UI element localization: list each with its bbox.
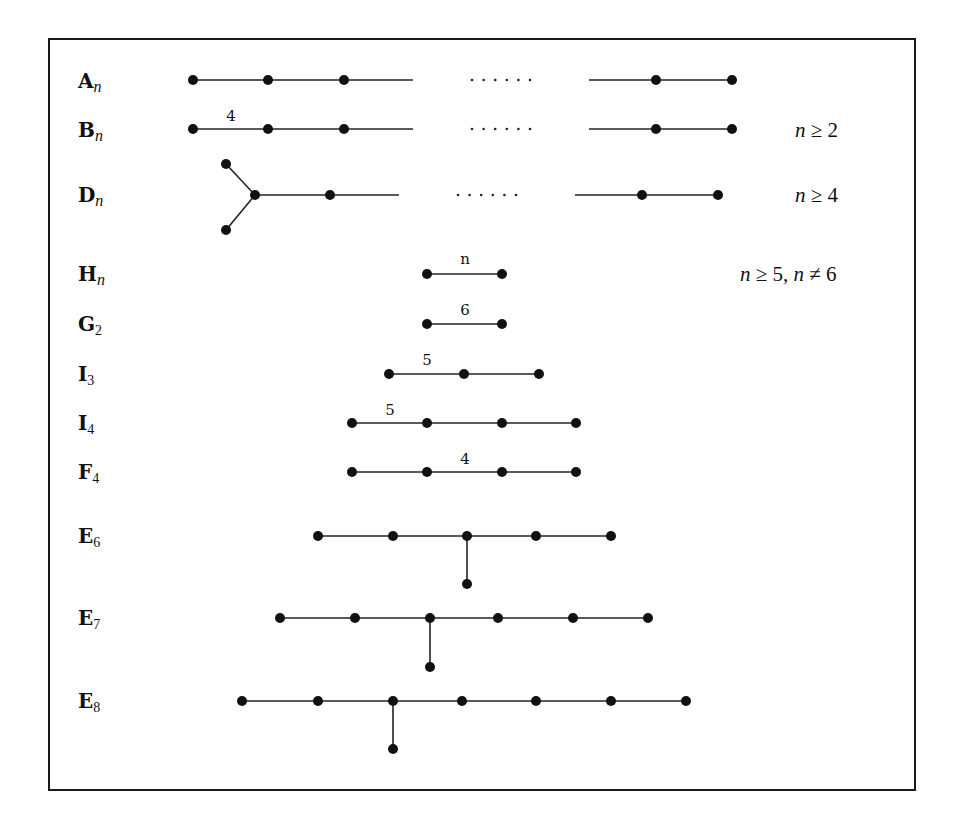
diagram-row-i-3: I35 bbox=[78, 351, 544, 388]
ellipsis-dot bbox=[503, 194, 506, 197]
row-label-letter: E bbox=[78, 524, 93, 548]
diagram-node bbox=[727, 124, 737, 134]
row-label: G2 bbox=[78, 312, 102, 338]
row-label-subscript: n bbox=[95, 127, 103, 144]
ellipsis-dot bbox=[494, 79, 497, 82]
diagram-node bbox=[422, 418, 432, 428]
diagram-node bbox=[531, 531, 541, 541]
diagram-node bbox=[339, 124, 349, 134]
row-label: E8 bbox=[78, 689, 100, 715]
diagram-node bbox=[643, 613, 653, 623]
row-label-subscript: 8 bbox=[93, 700, 100, 715]
row-label: Dn bbox=[78, 183, 103, 209]
diagram-row-e-8: E8 bbox=[78, 689, 691, 754]
diagram-node bbox=[651, 124, 661, 134]
ellipsis-dot bbox=[494, 128, 497, 131]
diagram-node bbox=[531, 696, 541, 706]
diagram-node bbox=[713, 190, 723, 200]
diagram-row-e-6: E6 bbox=[78, 524, 616, 589]
ellipsis-dot bbox=[517, 79, 520, 82]
diagram-node bbox=[350, 613, 360, 623]
diagram-row-b-n: Bn4n ≥ 2 bbox=[78, 107, 838, 144]
diagram-node bbox=[681, 696, 691, 706]
diagram-node bbox=[457, 696, 467, 706]
ellipsis-dot bbox=[515, 194, 518, 197]
diagram-node bbox=[462, 531, 472, 541]
diagram-node bbox=[313, 531, 323, 541]
row-label-letter: F bbox=[78, 460, 92, 484]
diagram-node bbox=[221, 159, 231, 169]
row-condition: n ≥ 4 bbox=[795, 183, 839, 207]
row-label: F4 bbox=[78, 460, 99, 486]
row-label-subscript: n bbox=[94, 78, 102, 95]
diagram-node bbox=[493, 613, 503, 623]
diagram-node bbox=[497, 418, 507, 428]
row-label-letter: G bbox=[78, 312, 95, 336]
diagram-node bbox=[347, 467, 357, 477]
ellipsis-dot bbox=[482, 128, 485, 131]
diagram-edge bbox=[226, 164, 255, 195]
row-label-letter: B bbox=[78, 118, 95, 142]
row-label-subscript: 4 bbox=[92, 471, 99, 486]
ellipsis-dot bbox=[506, 128, 509, 131]
ellipsis-dot bbox=[480, 194, 483, 197]
diagram-row-d-n: Dnn ≥ 4 bbox=[78, 159, 839, 235]
diagram-row-g-2: G26 bbox=[78, 301, 507, 338]
diagram-node bbox=[188, 124, 198, 134]
diagram-node bbox=[250, 190, 260, 200]
ellipsis-dot bbox=[492, 194, 495, 197]
diagram-node bbox=[571, 418, 581, 428]
diagram-node bbox=[275, 613, 285, 623]
row-condition: n ≥ 2 bbox=[795, 118, 838, 142]
diagram-node bbox=[534, 369, 544, 379]
row-label-letter: E bbox=[78, 606, 93, 630]
diagram-node bbox=[325, 190, 335, 200]
row-label-letter: H bbox=[78, 262, 97, 286]
ellipsis-dot bbox=[457, 194, 460, 197]
diagram-node bbox=[422, 269, 432, 279]
diagram-edge bbox=[226, 195, 255, 230]
diagram-node bbox=[606, 531, 616, 541]
row-label-subscript: 3 bbox=[87, 373, 94, 388]
row-label-subscript: 2 bbox=[95, 323, 102, 338]
row-label-letter: D bbox=[78, 183, 95, 207]
diagram-node bbox=[339, 75, 349, 85]
row-label: E7 bbox=[78, 606, 100, 632]
edge-weight-label: n bbox=[460, 250, 470, 268]
diagram-node bbox=[263, 75, 273, 85]
diagram-node bbox=[462, 579, 472, 589]
diagram-row-a-n: An bbox=[77, 69, 737, 95]
row-label: An bbox=[77, 69, 102, 95]
diagram-node bbox=[422, 467, 432, 477]
row-label-subscript: 4 bbox=[87, 422, 94, 437]
diagram-row-i-4: I45 bbox=[78, 401, 581, 437]
ellipsis-dot bbox=[506, 79, 509, 82]
ellipsis-dot bbox=[517, 128, 520, 131]
diagram-node bbox=[313, 696, 323, 706]
ellipsis-dot bbox=[468, 194, 471, 197]
row-condition: n ≥ 5, n ≠ 6 bbox=[740, 262, 837, 286]
coxeter-diagram-figure: AnBn4n ≥ 2Dnn ≥ 4Hnnn ≥ 5, n ≠ 6G26I35I4… bbox=[0, 0, 959, 836]
row-label: I3 bbox=[78, 362, 94, 388]
ellipsis-dot bbox=[471, 128, 474, 131]
ellipsis-dot bbox=[482, 79, 485, 82]
diagram-node bbox=[388, 744, 398, 754]
row-label-subscript: 6 bbox=[93, 535, 100, 550]
edge-weight-label: 4 bbox=[460, 450, 470, 468]
row-label: E6 bbox=[78, 524, 100, 550]
row-label-subscript: n bbox=[95, 192, 103, 209]
ellipsis-dot bbox=[529, 128, 532, 131]
diagram-node bbox=[637, 190, 647, 200]
diagram-node bbox=[188, 75, 198, 85]
diagram-node bbox=[651, 75, 661, 85]
diagram-node bbox=[727, 75, 737, 85]
diagram-node bbox=[422, 319, 432, 329]
diagram-node bbox=[571, 467, 581, 477]
diagram-node bbox=[425, 613, 435, 623]
diagram-row-h-n: Hnnn ≥ 5, n ≠ 6 bbox=[78, 250, 837, 288]
diagram-node bbox=[606, 696, 616, 706]
diagram-node bbox=[459, 369, 469, 379]
diagram-node bbox=[237, 696, 247, 706]
diagram-node bbox=[388, 696, 398, 706]
diagram-node bbox=[263, 124, 273, 134]
